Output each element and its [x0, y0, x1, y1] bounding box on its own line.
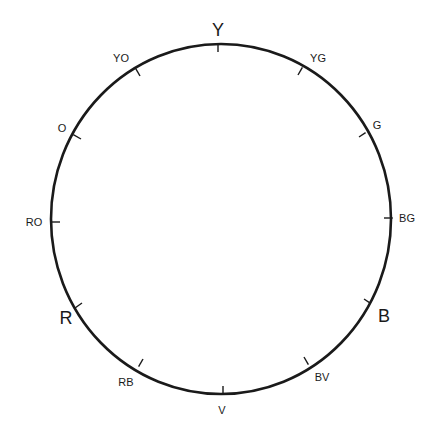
label-R: R — [60, 308, 73, 328]
label-Y: Y — [212, 20, 224, 40]
tick-YG — [298, 67, 302, 75]
label-RB: RB — [118, 376, 133, 388]
tick-G — [359, 133, 366, 137]
hue-labels: Y YG G BG B BV V RB R RO O YO — [26, 20, 415, 416]
tick-RB — [139, 359, 143, 367]
label-RO: RO — [26, 216, 43, 228]
label-YG: YG — [310, 52, 326, 64]
label-V: V — [218, 404, 226, 416]
label-O: O — [58, 122, 67, 134]
label-BV: BV — [315, 371, 330, 383]
label-YO: YO — [113, 52, 129, 64]
label-BG: BG — [399, 212, 415, 224]
tick-BV — [304, 357, 308, 365]
color-wheel-ring — [51, 44, 391, 394]
tick-R — [74, 303, 82, 309]
tick-B — [364, 299, 371, 303]
label-G: G — [373, 119, 382, 131]
tick-YO — [136, 68, 140, 76]
tick-O — [73, 135, 81, 139]
label-B: B — [378, 306, 390, 326]
color-wheel-diagram: Y YG G BG B BV V RB R RO O YO — [0, 0, 437, 422]
